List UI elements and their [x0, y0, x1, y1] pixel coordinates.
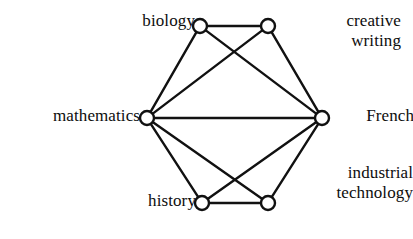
graph-node-biology[interactable] — [193, 19, 207, 33]
node-label-creative-writing-line1: creative — [281, 11, 401, 31]
node-label-creative-writing: creative writing — [281, 11, 401, 51]
graph-diagram-canvas: biology creative writing mathematics Fre… — [0, 0, 413, 239]
graph-node-industrial-technology[interactable] — [261, 196, 275, 210]
edges-layer — [150, 26, 319, 203]
node-label-biology: biology — [109, 11, 195, 31]
graph-node-french[interactable] — [315, 111, 329, 125]
graph-node-creative-writing[interactable] — [261, 19, 275, 33]
graph-edge-biology-to-mathematics — [150, 31, 197, 113]
graph-edge-creative-writing-to-mathematics — [152, 30, 263, 115]
node-label-industrial-technology-line1: industrial — [295, 163, 413, 183]
node-label-creative-writing-line2: writing — [281, 31, 401, 51]
graph-node-mathematics[interactable] — [140, 111, 154, 125]
node-label-history: history — [118, 191, 196, 211]
graph-edge-mathematics-to-history — [150, 123, 198, 198]
graph-node-history[interactable] — [195, 196, 209, 210]
node-label-french: French — [334, 106, 413, 126]
node-label-mathematics: mathematics — [8, 106, 140, 126]
graph-edge-mathematics-to-industrial-technology — [152, 121, 263, 199]
node-label-industrial-technology-line2: technology — [295, 183, 413, 203]
node-label-industrial-technology: industrial technology — [295, 163, 413, 203]
